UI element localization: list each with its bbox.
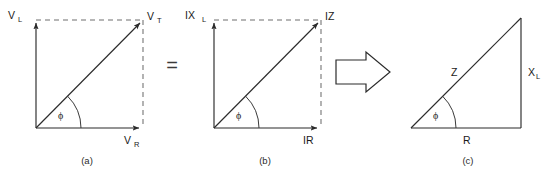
- panel-a-horizontal-label: V: [124, 134, 131, 146]
- panel-c-hypotenuse-label: Z: [451, 66, 458, 78]
- panel-b: ϕ IX L IZ IR (b): [185, 9, 335, 166]
- equals-operator: =: [166, 54, 178, 76]
- panel-c-angle-arc: [443, 96, 456, 128]
- panel-a-angle-label: ϕ: [58, 110, 63, 121]
- panel-b-vertical-label: IX: [185, 9, 195, 21]
- panel-b-resultant-vector: [214, 23, 318, 128]
- panel-a: ϕ V L V T V R (a): [8, 9, 162, 166]
- panel-a-resultant-vector: [36, 23, 140, 128]
- panel-a-vertical-label: V: [8, 9, 15, 21]
- panel-b-caption: (b): [259, 155, 271, 166]
- phasor-impedance-figure: ϕ V L V T V R (a) = ϕ IX: [0, 0, 551, 174]
- panel-b-horizontal-label: IR: [303, 134, 314, 146]
- panel-a-resultant-label-sub: T: [157, 16, 162, 25]
- panel-a-caption: (a): [81, 155, 93, 166]
- panel-c-angle-label: ϕ: [433, 110, 438, 121]
- panel-a-horizontal-label-sub: R: [134, 140, 140, 149]
- diagram-canvas: ϕ V L V T V R (a) = ϕ IX: [0, 0, 551, 174]
- panel-c-vertical-label: X: [528, 66, 535, 78]
- panel-c-caption: (c): [462, 155, 473, 166]
- panel-a-resultant-label: V: [147, 10, 154, 22]
- implies-arrow-icon: [336, 52, 390, 92]
- panel-b-resultant-label: IZ: [325, 10, 335, 22]
- panel-c-vertical-label-sub: L: [536, 72, 540, 81]
- panel-c-hypotenuse: [411, 18, 521, 128]
- panel-b-angle-label: ϕ: [236, 110, 241, 121]
- panel-b-angle-arc: [246, 96, 259, 128]
- implies-arrow-shape: [336, 52, 390, 92]
- panel-a-angle-arc: [68, 96, 81, 128]
- panel-a-vertical-label-sub: L: [18, 15, 22, 24]
- panel-b-vertical-label-sub: L: [202, 15, 206, 24]
- panel-c: ϕ Z X L R (c): [411, 18, 540, 166]
- panel-c-horizontal-label: R: [463, 134, 471, 146]
